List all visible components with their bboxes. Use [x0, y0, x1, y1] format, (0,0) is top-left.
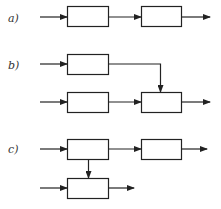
label-a: a): [8, 12, 19, 25]
label-b: b): [8, 59, 19, 72]
block-a1: [68, 7, 109, 27]
block-a2: [142, 7, 182, 27]
diagram-c: [40, 140, 207, 199]
block-b1: [68, 55, 109, 75]
diagram-b: [40, 55, 210, 113]
block-c2: [142, 140, 182, 160]
block-c3: [68, 179, 109, 199]
block-diagram: a) b) c): [0, 0, 221, 209]
block-b3: [142, 93, 182, 113]
diagram-a: [40, 7, 210, 27]
label-c: c): [8, 143, 18, 156]
block-c1: [68, 140, 109, 160]
merge-connector: [108, 64, 161, 92]
block-b2: [68, 93, 109, 113]
